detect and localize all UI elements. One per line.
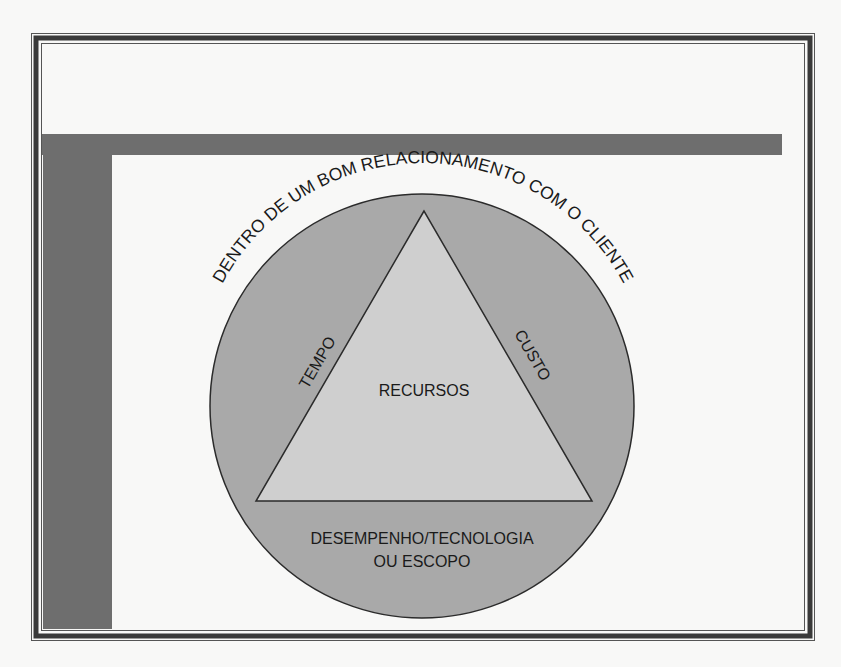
vertical-accent-bar [43,134,112,629]
slide-page: DENTRO DE UM BOM RELACIONAMENTO COM O CL… [0,0,841,667]
triple-constraint-diagram: DENTRO DE UM BOM RELACIONAMENTO COM O CL… [0,0,841,667]
performance-base-label-line1: DESEMPENHO/TECNOLOGIA [310,530,533,547]
performance-base-label-line2: OU ESCOPO [374,553,471,570]
resources-center-label: RECURSOS [379,382,470,399]
